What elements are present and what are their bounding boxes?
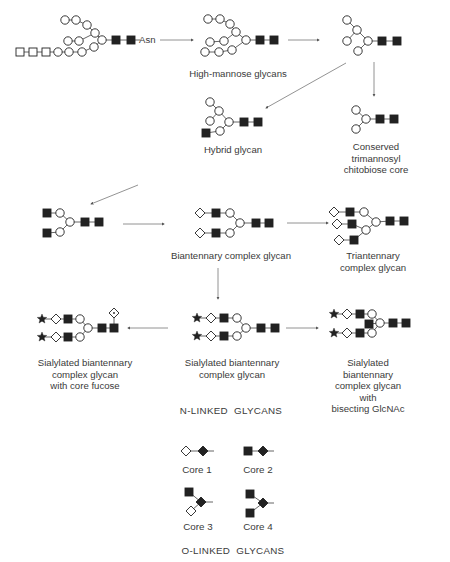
galactose-diamond-icon bbox=[181, 446, 191, 456]
mannose-circle-icon bbox=[220, 37, 228, 45]
mannose-circle-icon bbox=[206, 98, 214, 106]
glcnac-square-icon bbox=[376, 115, 384, 123]
mannose-circle-icon bbox=[66, 218, 74, 226]
mannose-circle-icon bbox=[78, 48, 86, 56]
triantennary-label: Triantennary complex glycan bbox=[335, 250, 412, 273]
sialylated-label: Sialylated biantennary complex glycan bbox=[185, 357, 279, 380]
sialylated-bisecting-glycan bbox=[329, 309, 410, 338]
glcnac-biantennary-glycan bbox=[43, 209, 103, 237]
mannose-circle-icon bbox=[353, 26, 361, 34]
mannose-circle-icon bbox=[56, 228, 64, 236]
glcnac-square-icon bbox=[212, 209, 220, 217]
glcnac-square-icon bbox=[346, 208, 354, 216]
mannose-circle-icon bbox=[225, 118, 233, 126]
mannose-circle-icon bbox=[56, 209, 64, 217]
glcnac-square-icon bbox=[110, 324, 118, 332]
mannose-circle-icon bbox=[233, 332, 241, 340]
glcnac-square-icon bbox=[350, 236, 358, 244]
glcnac-square-icon bbox=[185, 488, 193, 496]
trimannosyl-core-label: Conserved trimannosyl chitobiose core bbox=[339, 141, 413, 176]
glcnac-square-icon bbox=[393, 37, 401, 45]
mannose-circle-icon bbox=[54, 48, 62, 56]
mannose-circle-icon bbox=[84, 324, 92, 332]
glcnac-square-icon bbox=[389, 319, 397, 327]
mannose-circle-icon bbox=[343, 37, 351, 45]
mannose-circle-icon bbox=[242, 36, 250, 44]
galactose-diamond-icon bbox=[206, 331, 216, 341]
mannose-circle-icon bbox=[352, 106, 360, 114]
hybrid-glycan bbox=[202, 98, 262, 137]
sialic-acid-star-icon bbox=[37, 332, 47, 341]
glcnac-square-icon bbox=[244, 447, 252, 455]
mannose-circle-icon bbox=[91, 29, 99, 37]
sialic-acid-star-icon bbox=[37, 314, 47, 323]
galactose-diamond-icon bbox=[51, 332, 61, 342]
core-1-label: Core 1 bbox=[182, 464, 211, 475]
o-glycan-core-2 bbox=[244, 446, 274, 456]
sialylated-fucose-label: Sialylated biantennary complex glycan wi… bbox=[38, 357, 132, 392]
glcnac-square-icon bbox=[265, 219, 273, 227]
mannose-circle-icon bbox=[76, 315, 84, 323]
mannose-circle-icon bbox=[362, 115, 370, 123]
glcnac-square-icon bbox=[220, 314, 228, 322]
glcnac-square-icon bbox=[246, 509, 254, 517]
galactose-diamond-icon bbox=[342, 328, 352, 338]
mannose-circle-icon bbox=[372, 218, 380, 226]
galnac-diamond-icon bbox=[258, 446, 268, 456]
mannose-circle-icon bbox=[206, 38, 214, 46]
precursor-glycan bbox=[16, 16, 140, 56]
glcnac-square-icon bbox=[127, 36, 135, 44]
mannose-circle-icon bbox=[228, 46, 236, 54]
mannose-circle-icon bbox=[376, 319, 384, 327]
mannose-circle-icon bbox=[368, 329, 376, 337]
biantennary-label: Biantennary complex glycan bbox=[171, 250, 291, 262]
core-3-label: Core 3 bbox=[183, 521, 212, 532]
glcnac-square-icon bbox=[252, 219, 260, 227]
galactose-diamond-icon bbox=[329, 207, 339, 217]
mannose-circle-icon bbox=[226, 209, 234, 217]
galnac-diamond-icon bbox=[198, 446, 208, 456]
triantennary-complex-glycan bbox=[329, 207, 408, 245]
glcnac-square-icon bbox=[98, 324, 106, 332]
mannose-circle-icon bbox=[98, 36, 106, 44]
glcnac-square-icon bbox=[271, 324, 279, 332]
mannose-circle-icon bbox=[65, 48, 73, 56]
glcnac-square-icon bbox=[257, 324, 265, 332]
mannose-circle-icon bbox=[364, 37, 372, 45]
mannose-circle-icon bbox=[215, 107, 223, 115]
mannose-circle-icon bbox=[242, 324, 250, 332]
mannose-circle-icon bbox=[354, 47, 362, 55]
glcnac-square-icon bbox=[43, 209, 51, 217]
glcnac-square-icon bbox=[348, 220, 356, 228]
glycan-pathway-diagram bbox=[0, 0, 450, 562]
core-2-label: Core 2 bbox=[243, 464, 272, 475]
asn-label: Asn bbox=[139, 34, 156, 45]
glucose-square-icon bbox=[42, 48, 50, 56]
mannose-circle-icon bbox=[90, 43, 98, 51]
high-mannose-label: High-mannose glycans bbox=[189, 68, 287, 80]
trimannosyl-core bbox=[352, 106, 398, 133]
o-glycan-core-4 bbox=[246, 490, 274, 517]
mannose-circle-icon bbox=[75, 37, 83, 45]
mannose-circle-icon bbox=[232, 28, 240, 36]
glcnac-square-icon bbox=[386, 217, 394, 225]
glcnac-square-icon bbox=[402, 319, 410, 327]
mannose-circle-icon bbox=[352, 125, 360, 133]
core-4-label: Core 4 bbox=[243, 521, 272, 532]
glucose-square-icon bbox=[29, 48, 37, 56]
mannose-circle-icon bbox=[233, 314, 241, 322]
mannose-circle-icon bbox=[362, 226, 370, 234]
sialic-acid-star-icon bbox=[192, 313, 202, 322]
sialic-acid-star-icon bbox=[329, 309, 339, 318]
mannose-circle-icon bbox=[360, 208, 368, 216]
mannose-circle-icon bbox=[201, 48, 209, 56]
mannose-circle-icon bbox=[368, 310, 376, 318]
mannose-circle-icon bbox=[236, 219, 244, 227]
glcnac-square-icon bbox=[270, 36, 278, 44]
galactose-diamond-icon bbox=[206, 313, 216, 323]
sialylated-biantennary-glycan bbox=[192, 313, 279, 341]
o-glycan-core-1 bbox=[181, 446, 214, 456]
high-mannose-glycan bbox=[201, 15, 278, 56]
hybrid-glycan-label: Hybrid glycan bbox=[204, 144, 262, 156]
galactose-diamond-icon bbox=[334, 235, 344, 245]
